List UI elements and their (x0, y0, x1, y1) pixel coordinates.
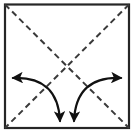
fold-diagram-figure (0, 0, 134, 136)
diagram-canvas (0, 0, 134, 136)
